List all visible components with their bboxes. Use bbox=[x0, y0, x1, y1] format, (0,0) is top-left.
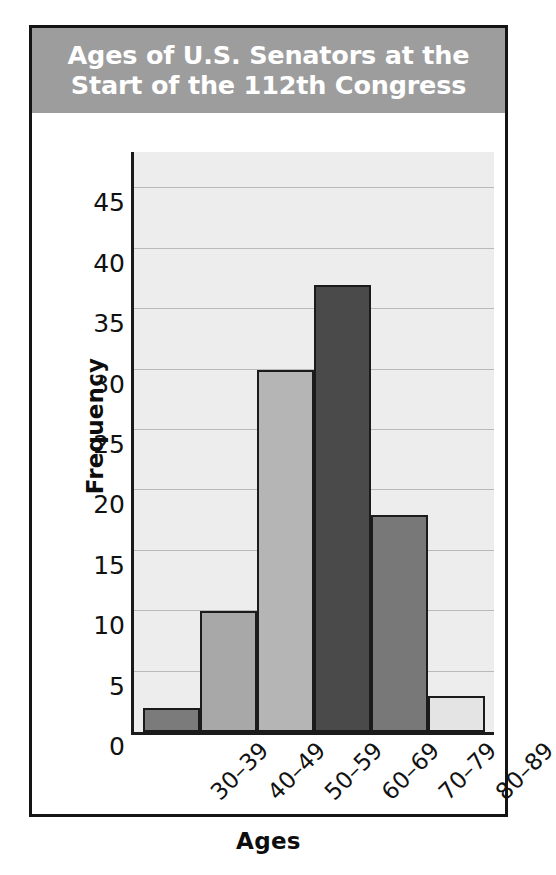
plot-area bbox=[131, 152, 494, 735]
chart-title: Ages of U.S. Senators at the Start of th… bbox=[52, 41, 486, 100]
bar bbox=[428, 696, 485, 732]
bar bbox=[143, 708, 200, 732]
x-tick-label: 50–59 bbox=[319, 737, 387, 805]
x-tick-label: 60–69 bbox=[376, 737, 444, 805]
figure-frame: Ages of U.S. Senators at the Start of th… bbox=[29, 25, 508, 817]
x-tick-label: 80–89 bbox=[490, 737, 556, 805]
x-axis-tick-labels: 30–3940–4950–5960–6970–7980–89 bbox=[131, 737, 491, 832]
x-tick-label: 30–39 bbox=[205, 737, 273, 805]
x-tick-label: 70–79 bbox=[433, 737, 501, 805]
bars-layer bbox=[134, 152, 494, 732]
bar bbox=[371, 515, 428, 733]
bar bbox=[200, 611, 257, 732]
plot-region: Frequency 051015202530354045 30–3940–495… bbox=[32, 113, 505, 814]
bar bbox=[314, 285, 371, 732]
x-axis-label: Ages bbox=[32, 828, 505, 854]
y-axis-tick-labels: 051015202530354045 bbox=[63, 152, 125, 732]
title-banner: Ages of U.S. Senators at the Start of th… bbox=[32, 28, 505, 113]
x-tick-label: 40–49 bbox=[262, 737, 330, 805]
bar bbox=[257, 370, 314, 733]
